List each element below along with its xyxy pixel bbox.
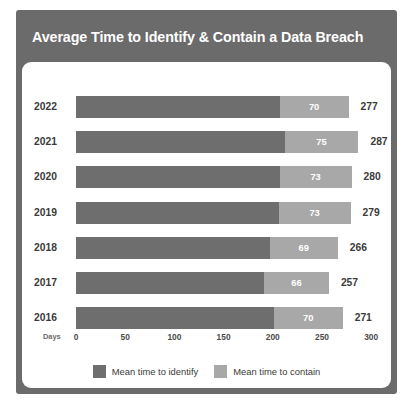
x-axis-tick: 250 <box>315 330 329 344</box>
table-row: 202175287 <box>22 131 391 153</box>
stacked-bar[interactable]: 70 <box>76 307 343 329</box>
x-axis-tick: 100 <box>167 330 181 344</box>
legend-label: Mean time to identify <box>112 366 199 377</box>
bar-segment-identify[interactable] <box>76 131 285 153</box>
chart-panel: 2022702772021752872020732802019732792018… <box>22 62 391 388</box>
stacked-bar[interactable]: 73 <box>76 202 351 224</box>
stacked-bar[interactable]: 66 <box>76 272 329 294</box>
year-label: 2020 <box>34 166 74 188</box>
stacked-bar[interactable]: 70 <box>76 96 349 118</box>
bar-value-label: 66 <box>291 278 301 288</box>
stacked-bar[interactable]: 75 <box>76 131 358 153</box>
bar-value-label: 70 <box>309 102 319 112</box>
bar-segment-identify[interactable] <box>76 96 280 118</box>
bar-segment-contain[interactable]: 73 <box>280 166 352 188</box>
bar-value-label: 73 <box>310 172 320 182</box>
bar-segment-identify[interactable] <box>76 202 279 224</box>
bar-segment-identify[interactable] <box>76 272 264 294</box>
bar-segment-identify[interactable] <box>76 166 280 188</box>
bar-value-label: 69 <box>299 243 309 253</box>
bar-total-label: 280 <box>364 166 381 188</box>
x-axis-tick: 50 <box>121 330 130 344</box>
bar-total-label: 277 <box>361 96 378 118</box>
bar-value-label: 70 <box>303 313 313 323</box>
x-axis-tick: 150 <box>217 330 231 344</box>
legend-item[interactable]: Mean time to contain <box>214 365 320 378</box>
bar-segment-contain[interactable]: 75 <box>285 131 359 153</box>
x-axis-tick: 200 <box>266 330 280 344</box>
bar-total-label: 266 <box>350 237 367 259</box>
chart-legend: Mean time to identifyMean time to contai… <box>22 362 391 380</box>
year-label: 2021 <box>34 131 74 153</box>
bar-total-label: 279 <box>363 202 380 224</box>
legend-item[interactable]: Mean time to identify <box>93 365 199 378</box>
stacked-bar[interactable]: 73 <box>76 166 352 188</box>
chart-title: Average Time to Identify & Contain a Dat… <box>32 24 382 50</box>
x-axis-tick: 300 <box>364 330 378 344</box>
table-row: 201766257 <box>22 272 391 294</box>
stacked-bar[interactable]: 69 <box>76 237 338 259</box>
chart-card: Average Time to Identify & Contain a Dat… <box>16 10 397 394</box>
bar-value-label: 73 <box>309 208 319 218</box>
bar-segment-contain[interactable]: 70 <box>274 307 343 329</box>
table-row: 201869266 <box>22 237 391 259</box>
year-label: 2022 <box>34 96 74 118</box>
bar-segment-identify[interactable] <box>76 307 274 329</box>
table-row: 201973279 <box>22 202 391 224</box>
bar-total-label: 271 <box>355 307 372 329</box>
bar-segment-contain[interactable]: 73 <box>279 202 351 224</box>
bar-segment-contain[interactable]: 70 <box>280 96 349 118</box>
x-axis-label: Days <box>43 330 61 344</box>
table-row: 201670271 <box>22 307 391 329</box>
year-label: 2018 <box>34 237 74 259</box>
bar-total-label: 287 <box>370 131 387 153</box>
legend-swatch-icon <box>214 365 227 378</box>
year-label: 2017 <box>34 272 74 294</box>
legend-swatch-icon <box>93 365 106 378</box>
year-label: 2016 <box>34 307 74 329</box>
table-row: 202073280 <box>22 166 391 188</box>
bar-segment-identify[interactable] <box>76 237 270 259</box>
bar-segment-contain[interactable]: 66 <box>264 272 329 294</box>
x-axis: Days 050100150200250300 <box>22 330 391 346</box>
legend-label: Mean time to contain <box>233 366 320 377</box>
bar-value-label: 75 <box>316 137 326 147</box>
bar-segment-contain[interactable]: 69 <box>270 237 338 259</box>
table-row: 202270277 <box>22 96 391 118</box>
bar-total-label: 257 <box>341 272 358 294</box>
year-label: 2019 <box>34 202 74 224</box>
x-axis-tick: 0 <box>74 330 79 344</box>
